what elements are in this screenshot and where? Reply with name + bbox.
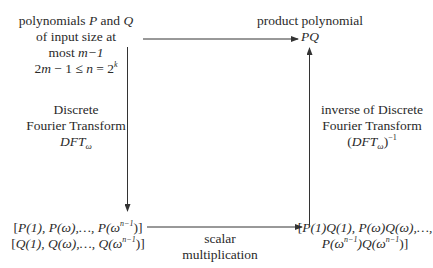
input-line-1: polynomials P and Q [18, 13, 134, 29]
ineq-m: m [41, 61, 51, 76]
input-and: and [101, 13, 121, 28]
input-line-3: most m−1 [18, 45, 134, 61]
idft-line-1: inverse of Discrete [312, 102, 432, 118]
evaluations-node: [P(1), P(ω),…, P(ωn−1)] [Q(1), Q(ω),…, Q… [10, 220, 146, 252]
product-polynomial-node: product polynomial PQ [250, 13, 370, 45]
eval-q-body: Q(1), Q(ω),…, Q(ω [16, 236, 122, 251]
scalar-line-1: scalar [170, 231, 270, 247]
ineq-c: = 2 [93, 61, 114, 76]
input-polynomials-node: polynomials P and Q of input size at mos… [18, 13, 134, 77]
prod-row-2: P(ωn−1)Q(ωn−1)] [297, 236, 433, 252]
eval-row-q: [Q(1), Q(ω),…, Q(ωn−1)] [10, 236, 146, 252]
input-line-2: of input size at [18, 29, 134, 45]
prod-c: )] [399, 236, 408, 251]
prod-b: )Q(ω [358, 236, 386, 251]
ineq-exp: k [114, 60, 118, 69]
dft-sub: ω [86, 141, 92, 151]
dft-line-2: Fourier Transform [18, 118, 134, 134]
dft-symbol: DFTω [18, 134, 134, 150]
idft-line-2: Fourier Transform [312, 118, 432, 134]
scalar-line-2: multiplication [170, 247, 270, 263]
product-label: product polynomial [250, 13, 370, 29]
dft-line-1: Discrete [18, 102, 134, 118]
prod-body: P(1)Q(1), P(ω)Q(ω),…, [302, 220, 432, 235]
inverse-dft-label: inverse of Discrete Fourier Transform (D… [312, 102, 432, 150]
ineq-b: − 1 ≤ [51, 61, 86, 76]
eval-p-body: P(1), P(ω),…, P(ω [18, 220, 120, 235]
eval-row-p: [P(1), P(ω),…, P(ωn−1)] [10, 220, 146, 236]
eval-p-exp: n−1 [120, 219, 133, 228]
ineq-n: n [86, 61, 93, 76]
prod-exp2: n−1 [386, 235, 399, 244]
var-p: P [89, 13, 97, 28]
prod-exp1: n−1 [344, 235, 357, 244]
eval-q-exp: n−1 [122, 235, 135, 244]
products-node: [P(1)Q(1), P(ω)Q(ω),…, P(ωn−1)Q(ωn−1)] [297, 220, 433, 252]
eval-p-close: )] [133, 220, 142, 235]
dft-label: Discrete Fourier Transform DFTω [18, 102, 134, 150]
eval-q-close: )] [136, 236, 145, 251]
input-line-4: 2m − 1 ≤ n = 2k [18, 61, 134, 77]
prod-a: P(ω [322, 236, 344, 251]
scalar-multiplication-label: scalar multiplication [170, 231, 270, 263]
input-text: polynomials [19, 13, 86, 28]
dft-text: DFT [60, 134, 86, 149]
idft-exp: −1 [388, 133, 397, 142]
idft-text: DFT [352, 134, 378, 149]
product-symbol: PQ [301, 29, 319, 44]
var-q: Q [123, 13, 133, 28]
input-most: most [48, 45, 74, 60]
idft-symbol: (DFTω)−1 [312, 134, 432, 150]
input-degree: m−1 [78, 45, 104, 60]
prod-row-1: [P(1)Q(1), P(ω)Q(ω),…, [297, 220, 433, 236]
